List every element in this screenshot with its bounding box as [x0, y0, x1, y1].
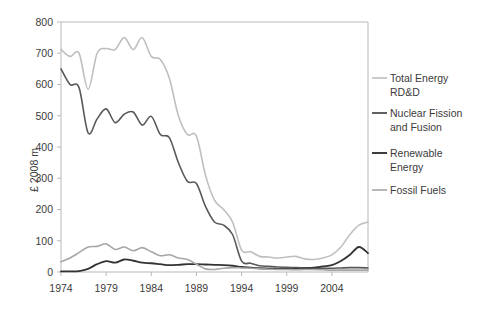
- y-tick-label: 700: [35, 47, 53, 59]
- x-tick-label: 1979: [94, 282, 118, 294]
- x-tick-label: 1984: [140, 282, 164, 294]
- legend-label: Renewable: [390, 147, 443, 159]
- y-axis-title: £ 2008 m: [28, 148, 40, 192]
- chart-canvas: 0100200300400500600700800 19741979198419…: [0, 0, 498, 323]
- y-axis-tick-labels: 0100200300400500600700800: [35, 16, 53, 278]
- x-tick-label: 1999: [275, 282, 299, 294]
- x-tick-label: 1974: [49, 282, 73, 294]
- legend-label-continued: and Fusion: [390, 121, 442, 133]
- y-tick-label: 500: [35, 110, 53, 122]
- x-tick-label: 2004: [320, 282, 344, 294]
- x-tick-label: 1994: [230, 282, 254, 294]
- legend-label: Fossil Fuels: [390, 184, 446, 196]
- legend-label: Total Energy: [390, 72, 449, 84]
- x-tick-label: 1989: [185, 282, 209, 294]
- energy-rdd-line-chart: 0100200300400500600700800 19741979198419…: [0, 0, 498, 323]
- legend-label: Nuclear Fission: [390, 107, 463, 119]
- y-tick-label: 100: [35, 235, 53, 247]
- y-tick-label: 0: [47, 266, 53, 278]
- chart-background: [0, 0, 498, 323]
- y-tick-label: 200: [35, 203, 53, 215]
- y-tick-label: 800: [35, 16, 53, 28]
- legend-label-continued: Energy: [390, 161, 424, 173]
- legend-label-continued: RD&D: [390, 86, 420, 98]
- y-tick-label: 600: [35, 78, 53, 90]
